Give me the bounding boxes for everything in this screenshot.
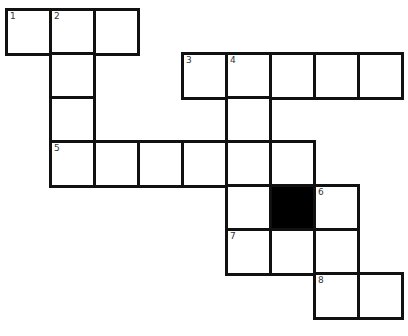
crossword-cell[interactable]: 1 bbox=[5, 8, 52, 56]
crossword-cell[interactable]: 5 bbox=[49, 140, 96, 188]
clue-number: 3 bbox=[186, 55, 192, 65]
crossword-cell[interactable] bbox=[313, 228, 360, 276]
clue-number: 6 bbox=[318, 187, 324, 197]
crossword-grid: 12345678 bbox=[0, 0, 408, 336]
crossword-cell[interactable]: 7 bbox=[225, 228, 272, 276]
crossword-cell[interactable] bbox=[269, 140, 316, 188]
crossword-cell[interactable] bbox=[313, 52, 360, 100]
clue-number: 2 bbox=[54, 11, 60, 21]
crossword-cell[interactable] bbox=[49, 96, 96, 144]
crossword-cell[interactable]: 8 bbox=[313, 272, 360, 320]
crossword-cell[interactable] bbox=[269, 52, 316, 100]
crossword-cell[interactable] bbox=[93, 140, 140, 188]
crossword-cell[interactable] bbox=[225, 96, 272, 144]
crossword-cell[interactable] bbox=[93, 8, 140, 56]
crossword-cell[interactable] bbox=[357, 272, 404, 320]
crossword-cell[interactable] bbox=[137, 140, 184, 188]
crossword-cell[interactable] bbox=[357, 52, 404, 100]
clue-number: 7 bbox=[230, 231, 236, 241]
clue-number: 4 bbox=[230, 55, 236, 65]
crossword-cell[interactable] bbox=[181, 140, 228, 188]
crossword-cell[interactable]: 2 bbox=[49, 8, 96, 56]
crossword-cell[interactable]: 6 bbox=[313, 184, 360, 232]
clue-number: 5 bbox=[54, 143, 60, 153]
crossword-cell[interactable] bbox=[225, 140, 272, 188]
crossword-cell[interactable]: 3 bbox=[181, 52, 228, 100]
crossword-cell[interactable]: 4 bbox=[225, 52, 272, 100]
crossword-cell[interactable] bbox=[269, 228, 316, 276]
crossword-cell[interactable] bbox=[225, 184, 272, 232]
clue-number: 8 bbox=[318, 275, 324, 285]
black-square bbox=[269, 184, 316, 232]
crossword-cell[interactable] bbox=[49, 52, 96, 100]
clue-number: 1 bbox=[10, 11, 16, 21]
